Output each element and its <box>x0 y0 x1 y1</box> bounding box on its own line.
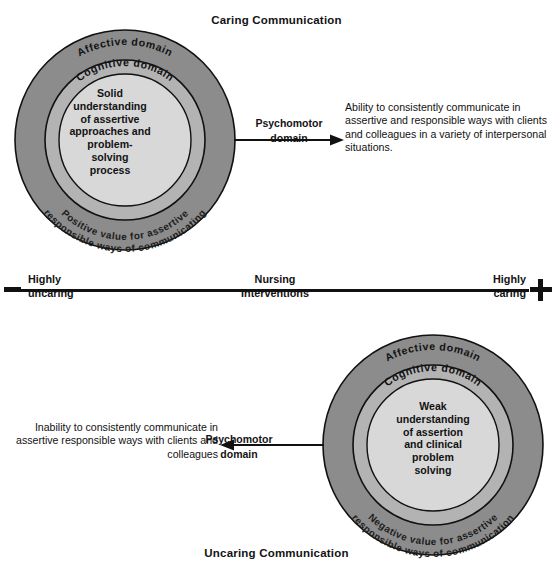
core-line: Weak <box>419 400 446 412</box>
core-line: and clinical <box>404 438 462 450</box>
diagram-canvas: Caring Communication Affective domain Co… <box>0 0 553 577</box>
uncaring-communication-title: Uncaring Communication <box>0 547 553 559</box>
uncaring-circle-graphic: Affective domain Cognitive domain Negati… <box>0 0 553 577</box>
core-line: of assertion <box>403 426 463 438</box>
core-line: understanding <box>396 413 470 425</box>
uncaring-core-text: Weak understanding of assertion and clin… <box>378 400 488 477</box>
domain-word: domain <box>220 448 257 460</box>
core-line: problem <box>412 451 454 463</box>
core-line: solving <box>414 464 451 476</box>
uncaring-outcome-text: Inability to consistently communicate in… <box>10 421 218 461</box>
